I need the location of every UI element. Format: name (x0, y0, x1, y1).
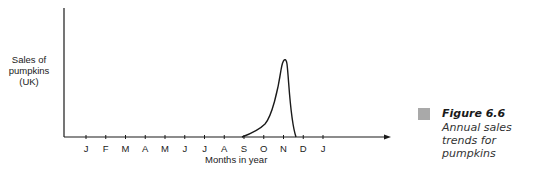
figure-caption-text: Annual sales trends for pumpkins (442, 121, 532, 160)
x-axis-arrow-icon (384, 135, 391, 140)
x-axis-tick-label: N (277, 143, 291, 154)
x-axis-tick-label: J (178, 143, 192, 154)
caption-swatch (418, 108, 430, 120)
x-axis-tick-label: F (99, 143, 113, 154)
x-axis-tick-label: J (198, 143, 212, 154)
x-axis-tick-label: D (296, 143, 310, 154)
y-axis-label-line: Sales of (0, 54, 58, 65)
y-axis-label: Sales of pumpkins (UK) (0, 54, 58, 87)
x-axis-tick-label: O (257, 143, 271, 154)
x-axis-tick-label: S (237, 143, 251, 154)
x-axis-tick-label: M (158, 143, 172, 154)
sales-curve (242, 60, 296, 137)
x-axis-tick-label: A (138, 143, 152, 154)
x-axis-tick-label: J (79, 143, 93, 154)
x-axis-label: Months in year (205, 154, 267, 165)
x-axis-tick-label: J (316, 143, 330, 154)
x-axis-tick-label: M (119, 143, 133, 154)
y-axis-label-line: pumpkins (0, 65, 58, 76)
x-axis-tick-label: A (217, 143, 231, 154)
y-axis-label-line: (UK) (0, 76, 58, 87)
figure-number: Figure 6.6 (442, 107, 505, 120)
